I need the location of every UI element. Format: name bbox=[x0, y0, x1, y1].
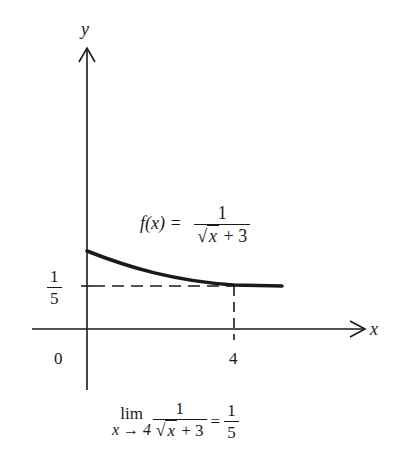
y-axis-label: y bbox=[81, 20, 89, 38]
y-tick-numerator: 1 bbox=[47, 268, 62, 287]
y-tick-denominator: 5 bbox=[47, 287, 62, 307]
function-denominator: √x + 3 bbox=[194, 224, 250, 245]
limit-result-numerator: 1 bbox=[224, 402, 239, 421]
x-tick-label: 4 bbox=[229, 350, 238, 367]
function-curve bbox=[87, 251, 282, 286]
x-axis-label: x bbox=[370, 320, 378, 338]
limit-denominator: √x + 3 bbox=[153, 419, 206, 439]
function-numerator: 1 bbox=[215, 204, 230, 224]
limit-result-denominator: 5 bbox=[224, 421, 239, 441]
limit-subscript: x → 4 bbox=[112, 422, 151, 438]
sqrt-icon: √x bbox=[197, 227, 219, 245]
limit-numerator: 1 bbox=[173, 400, 188, 419]
origin-label: 0 bbox=[54, 350, 63, 367]
y-tick-label: 1 5 bbox=[47, 268, 62, 307]
limit-equals: = bbox=[211, 413, 221, 430]
sqrt-icon: √x bbox=[156, 422, 177, 439]
function-label: f(x) = 1 √x + 3 bbox=[140, 204, 250, 245]
limit-lim: lim bbox=[120, 405, 143, 422]
limit-expression: lim x → 4 1 √x + 3 = 1 5 bbox=[112, 402, 239, 441]
function-lhs: f(x) = bbox=[140, 213, 182, 233]
